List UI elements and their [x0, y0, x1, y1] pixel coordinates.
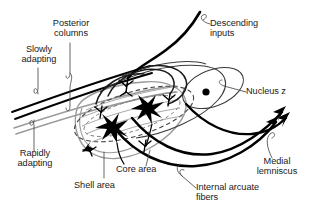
leader-slowly-adapting	[34, 68, 38, 94]
core-area-outline	[68, 75, 199, 153]
label-descending-inputs: Descending inputs	[210, 18, 290, 39]
label-slowly-adapting: Slowly adapting	[8, 44, 70, 65]
leader-medial-lemniscus	[267, 133, 274, 158]
label-posterior-columns: Posterior columns	[40, 18, 102, 39]
anatomical-diagram: Posterior columns Slowly adapting Rapidl…	[0, 0, 311, 221]
leader-internal-arcuate-a	[180, 169, 196, 188]
label-medial-lemniscus: Medial lemniscus	[246, 156, 308, 177]
nucleus-z-dot	[202, 88, 209, 95]
label-nucleus-z: Nucleus z	[246, 86, 308, 96]
label-internal-arcuate-fibers: Internal arcuate fibers	[196, 182, 288, 203]
label-rapidly-adapting: Rapidly adapting	[4, 148, 66, 169]
label-shell-area: Shell area	[74, 180, 136, 190]
label-core-area: Core area	[116, 164, 176, 174]
medial-lemniscus-arrowheads	[266, 106, 290, 131]
leader-descending-inputs	[201, 15, 210, 24]
